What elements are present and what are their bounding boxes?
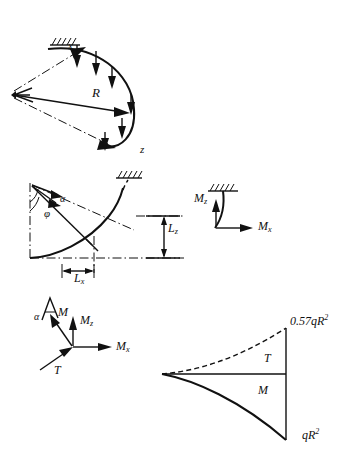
torsion-curve-label: T: [264, 352, 271, 364]
arch-axis-z-label: z: [140, 144, 144, 155]
node-alpha-label: α: [34, 312, 39, 322]
peak-torsion-label: 0.57qR2: [290, 314, 328, 327]
radius-line: [14, 95, 122, 112]
arch-radius-label: R: [92, 86, 100, 99]
node-mx-label: Mx: [116, 340, 130, 354]
lx-dimension-label: Lx: [74, 272, 84, 286]
node-mz-label: Mz: [80, 314, 93, 328]
peak-moment-label: qR2: [302, 428, 319, 441]
moment-z-arrowhead: [212, 199, 220, 212]
arch-axis-x-label: x: [68, 40, 73, 51]
arc-tick-mark: [86, 239, 98, 251]
arch-3d-figure: [0, 18, 200, 168]
axis-x-line: [14, 51, 79, 91]
arc-phi-label: φ: [44, 208, 50, 219]
origin-dot: [11, 91, 16, 99]
figure-sheet: x z R: [0, 0, 346, 456]
moment-x-arrowhead-d: [98, 343, 112, 351]
cantilever-mx-label: Mx: [258, 220, 272, 234]
fixed-support-hatch-b: [116, 171, 142, 178]
torsion-t-shaft: [40, 352, 66, 370]
fixed-support-hatch: [50, 38, 80, 45]
alpha-wedge: [42, 298, 58, 320]
moment-z-arrowhead-d: [69, 316, 77, 330]
node-t-label: T: [54, 364, 61, 376]
axis-z-line: [14, 98, 108, 144]
moment-x-arrowhead: [240, 224, 253, 232]
node-m-label: M: [58, 306, 68, 318]
arc-geometry-figure: [16, 178, 216, 290]
phi-angle-arc: [30, 197, 39, 211]
arc-alpha-label: α: [60, 194, 65, 204]
arc-dashed-extension: [123, 180, 128, 190]
fixed-support-hatch-c: [208, 184, 238, 191]
force-node-figure: [20, 296, 160, 376]
lz-dimension-label: Lz: [168, 222, 178, 236]
radius-arrowhead: [114, 107, 130, 117]
moment-curve-label: M: [258, 384, 268, 396]
cantilever-mz-label: Mz: [194, 192, 207, 206]
cantilever-moment-figure: [196, 182, 326, 252]
